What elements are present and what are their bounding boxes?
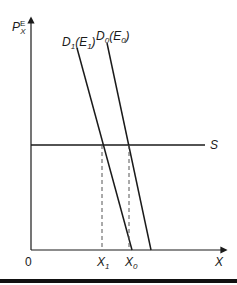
demand-label-d1: D1(E1) — [62, 36, 96, 51]
demand-curve-d1 — [77, 48, 132, 250]
bottom-rule — [0, 279, 237, 283]
x-axis-label: X — [215, 256, 223, 268]
x0-tick-label: X0 — [125, 256, 137, 271]
x1-tick-label: X1 — [97, 256, 109, 271]
y-axis-label: PEX — [12, 20, 26, 36]
origin-label: 0 — [25, 256, 32, 268]
supply-label: S — [210, 139, 218, 151]
demand-label-d0: D0(E0) — [96, 30, 130, 45]
